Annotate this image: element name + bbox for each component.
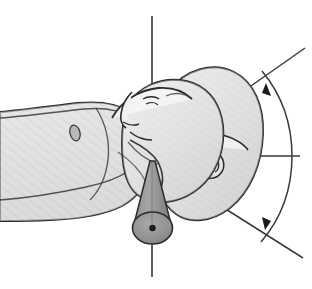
illustration-canvas: Cervical spine rotation range of motion [0,0,312,289]
head-rotation-illustration [0,0,312,289]
